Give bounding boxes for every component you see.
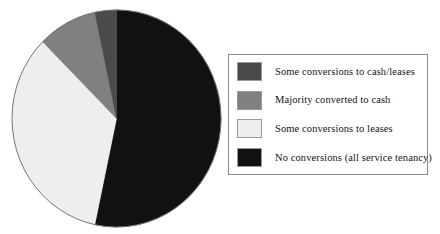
pie-slices <box>12 10 221 227</box>
legend-item-some-conversions-to-cash-leases[interactable]: Some conversions to cash/leases <box>229 57 427 86</box>
legend-item-label: Some conversions to leases <box>275 123 393 135</box>
legend-swatch-icon <box>237 62 262 81</box>
legend-item-label: No conversions (all service tenancy) <box>275 152 432 164</box>
legend-item-some-conversions-to-leases[interactable]: Some conversions to leases <box>229 115 427 144</box>
legend-items: Some conversions to cash/leases Majority… <box>229 55 427 174</box>
legend-item-label: Some conversions to cash/leases <box>275 66 415 78</box>
legend-item-majority-converted-to-cash[interactable]: Majority converted to cash <box>229 86 427 115</box>
legend-item-label: Majority converted to cash <box>275 94 390 106</box>
legend-item-no-conversions-all-service-tenancy[interactable]: No conversions (all service tenancy) <box>229 143 427 172</box>
legend-swatch-icon <box>237 119 262 138</box>
pie-chart <box>11 9 222 228</box>
legend: Some conversions to cash/leases Majority… <box>228 54 428 175</box>
pie-chart-figure: Some conversions to cash/leases Majority… <box>0 0 440 234</box>
pie-svg <box>11 9 222 228</box>
legend-swatch-icon <box>237 91 262 110</box>
legend-swatch-icon <box>237 148 262 167</box>
